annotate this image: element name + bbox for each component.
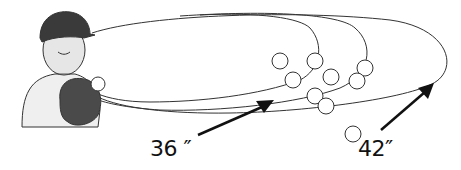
- arrow-42: [381, 83, 434, 130]
- balls: [272, 53, 373, 142]
- boy-figure: [22, 12, 105, 127]
- arrow-36: [198, 100, 274, 135]
- figure: 36 ″ 42″: [0, 0, 461, 170]
- label-36-inches: 36 ″: [150, 136, 191, 161]
- label-42-inches: 42″: [358, 136, 393, 161]
- trajectory-paths: [92, 13, 447, 113]
